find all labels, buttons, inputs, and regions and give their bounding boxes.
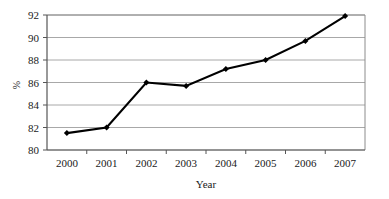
y-tick-label-88: 88 — [28, 54, 40, 66]
y-tick-label-86: 86 — [28, 77, 40, 89]
y-tick-label-90: 90 — [28, 32, 40, 44]
y-tick-label-92: 92 — [28, 9, 39, 21]
y-tick-label-80: 80 — [28, 144, 40, 156]
y-tick-label-84: 84 — [28, 99, 40, 111]
x-tick-label-2005: 2005 — [255, 157, 278, 169]
x-axis-title: Year — [196, 178, 217, 190]
x-tick-label-2000: 2000 — [56, 157, 79, 169]
y-tick-label-82: 82 — [28, 122, 39, 134]
y-axis-title: % — [11, 81, 22, 89]
x-tick-label-2007: 2007 — [334, 157, 357, 169]
x-tick-label-2001: 2001 — [96, 157, 118, 169]
chart-canvas: 80 82 84 86 88 90 92 2000 2001 2002 2003… — [0, 0, 389, 199]
line-chart: 80 82 84 86 88 90 92 2000 2001 2002 2003… — [0, 0, 389, 199]
x-tick-label-2004: 2004 — [215, 157, 238, 169]
x-tick-label-2002: 2002 — [135, 157, 157, 169]
chart-background — [0, 0, 389, 199]
x-tick-label-2006: 2006 — [294, 157, 317, 169]
x-tick-label-2003: 2003 — [175, 157, 198, 169]
